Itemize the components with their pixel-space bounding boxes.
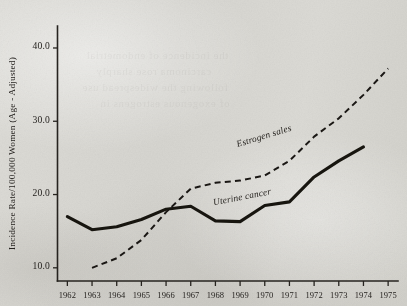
y-axis-tick-label: 20.0 (32, 187, 50, 198)
chart-canvas: 10.020.030.040.0196219631964196519661967… (0, 0, 407, 306)
x-axis-tick-label: 1973 (330, 290, 347, 300)
chart-figure: 10.020.030.040.0196219631964196519661967… (0, 0, 407, 306)
data-series (67, 69, 388, 268)
x-axis-tick-label: 1975 (379, 290, 396, 300)
uterine-cancer-label: Uterine cancer (212, 186, 272, 207)
y-axis-tick-label: 30.0 (32, 114, 50, 125)
x-axis-tick-label: 1971 (281, 290, 298, 300)
series-line-uterine-cancer (67, 147, 363, 230)
y-axis-tick-label: 10.0 (32, 260, 50, 271)
series-line-estrogen-sales (92, 69, 388, 268)
x-axis-tick-label: 1969 (231, 290, 248, 300)
chart-labels: 10.020.030.040.0196219631964196519661967… (7, 40, 397, 299)
y-axis-tick-label: 40.0 (32, 40, 50, 51)
x-axis-tick-label: 1965 (133, 290, 150, 300)
x-axis-tick-label: 1970 (256, 290, 273, 300)
x-axis-tick-label: 1963 (83, 290, 100, 300)
x-axis-tick-label: 1967 (182, 290, 199, 300)
estrogen-sales-label: Estrogen sales (234, 123, 293, 150)
x-axis-tick-label: 1964 (108, 290, 126, 300)
x-axis-tick-label: 1974 (355, 290, 373, 300)
x-axis-tick-label: 1966 (157, 290, 174, 300)
y-axis-title: Incidence Rate/100,000 Women (Age - Adju… (7, 57, 17, 250)
x-axis-tick-label: 1968 (207, 290, 224, 300)
x-axis-tick-label: 1972 (305, 290, 322, 300)
x-axis-tick-label: 1962 (59, 290, 76, 300)
